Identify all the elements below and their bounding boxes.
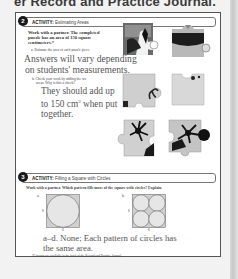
activity-label-prefix: ACTIVITY: bbox=[32, 176, 54, 181]
figure-b-label: b. bbox=[122, 194, 125, 198]
puzzle-piece-2 bbox=[171, 25, 211, 59]
activity-number-badge: 3 bbox=[18, 172, 28, 182]
answer-line: on students' measurements. bbox=[25, 65, 137, 76]
answer-text: when put bbox=[81, 99, 118, 109]
activity-label-title: Estimating Areas bbox=[54, 20, 89, 25]
page-header: er Record and Practice Journal. bbox=[14, 0, 216, 9]
activity-3-label: ACTIVITY: Filling a Square with Circles bbox=[32, 176, 110, 181]
activity-2-label: ACTIVITY: Estimating Areas bbox=[32, 20, 89, 25]
activity-3-prompt: Work with a partner. Which pattern fills… bbox=[26, 186, 162, 190]
answer-line: to 150 cm2 when put bbox=[41, 97, 117, 110]
answer-text: to 150 cm bbox=[41, 99, 78, 109]
answer-line: the same area. bbox=[43, 244, 177, 254]
figure-a-side-label: 6 bbox=[42, 209, 44, 213]
figure-b-side-label: 6 bbox=[128, 209, 130, 213]
answer-b: They should add up to 150 cm2 when put t… bbox=[41, 86, 117, 120]
figure-a-bottom-label: 6 bbox=[62, 228, 64, 232]
answer-line: Answers will vary depending bbox=[24, 54, 137, 65]
part-a-question: a. Estimate the area of each puzzle piec… bbox=[31, 48, 90, 52]
puzzle-piece-6 bbox=[168, 119, 212, 159]
activity-3-answer: a–d. None; Each pattern of circles has t… bbox=[43, 234, 177, 253]
answer-line: together. bbox=[41, 109, 117, 120]
activity-label-prefix: ACTIVITY: bbox=[32, 20, 54, 25]
figure-b-bottom-label: 6 bbox=[148, 228, 150, 232]
worksheet-panel: 2 ACTIVITY: Estimating Areas Work with a… bbox=[15, 12, 221, 257]
figure-a-label: a. bbox=[37, 194, 39, 198]
activity-number-badge: 2 bbox=[18, 16, 28, 26]
puzzle-piece-3 bbox=[122, 73, 164, 109]
prompt-line: centimeters.* bbox=[28, 40, 118, 45]
activity-2-prompt: Work with a partner. The completed puzzl… bbox=[28, 30, 118, 46]
answer-a: Answers will vary depending on students'… bbox=[24, 54, 137, 75]
activity-3-header: 3 ACTIVITY: Filling a Square with Circle… bbox=[21, 173, 216, 183]
footnote: *Cut-outs are available in the back of t… bbox=[32, 254, 122, 258]
figure-a-square-one-circle bbox=[46, 194, 80, 228]
figure-b-square-four-circles bbox=[132, 194, 166, 228]
puzzle-piece-1 bbox=[122, 22, 160, 58]
puzzle-piece-4 bbox=[171, 73, 207, 107]
answer-line: They should add up bbox=[41, 86, 117, 97]
part-b-question: b. Check your work by adding the six are… bbox=[32, 77, 92, 86]
activity-label-title: Filling a Square with Circles bbox=[54, 176, 111, 181]
puzzle-piece-5 bbox=[116, 119, 162, 157]
page-edge bbox=[230, 0, 238, 279]
